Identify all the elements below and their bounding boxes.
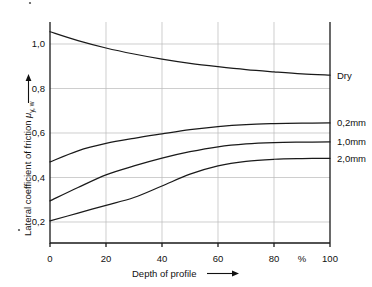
x-tick-label: 40 <box>157 253 168 264</box>
y-tick-label: 0,4 <box>32 172 45 183</box>
x-tick-labels: 020406080100 <box>47 253 338 264</box>
y-tick-label: 0,2 <box>32 216 45 227</box>
series-label-2-0mm: 2,0mm <box>337 153 366 164</box>
x-axis-unit-label: % <box>298 253 307 264</box>
friction-vs-profile-depth-chart: Dry0,2mm1,0mm2,0mm 020406080100 0,20,40,… <box>0 0 372 287</box>
series-label-1-0mm: 1,0mm <box>337 136 366 147</box>
x-tick-label: 80 <box>269 253 280 264</box>
x-tick-label: 100 <box>322 253 338 264</box>
x-axis-arrow-icon <box>207 271 239 277</box>
x-tick-label: 20 <box>101 253 112 264</box>
y-tick-labels: 0,20,40,60,81,0 <box>32 38 45 227</box>
y-tick-label: 0,6 <box>32 127 45 138</box>
y-axis-title-text: Lateral coefficient of friction <box>22 118 33 236</box>
y-tick-label: 0,8 <box>32 83 45 94</box>
x-tick-label: 0 <box>47 253 52 264</box>
y-axis-arrow-icon <box>26 74 32 103</box>
scan-speck <box>18 229 20 231</box>
series-labels: Dry0,2mm1,0mm2,0mm <box>337 70 366 164</box>
x-tick-label: 60 <box>213 253 224 264</box>
y-axis-title-group: Lateral coefficient of friction μy, w <box>22 74 36 236</box>
series-label-0-2mm: 0,2mm <box>337 117 366 128</box>
scan-speck <box>29 2 31 4</box>
x-axis-title: Depth of profile <box>132 268 196 279</box>
y-tick-label: 1,0 <box>32 38 45 49</box>
series-label-dry: Dry <box>337 70 352 81</box>
